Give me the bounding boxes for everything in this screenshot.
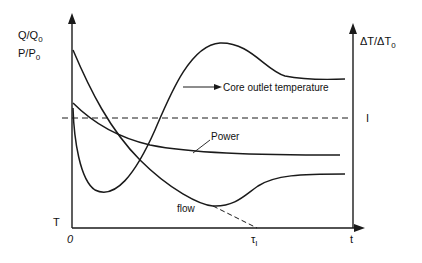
flow-label: flow (177, 203, 196, 214)
left-axis (68, 13, 76, 228)
x-axis-label: t (350, 233, 353, 245)
origin-label: 0 (67, 233, 74, 245)
flow-extrapolation-line (213, 206, 257, 228)
power-label: Power (211, 131, 240, 142)
left-axis-label-p: P/P0 (18, 47, 41, 62)
transient-response-diagram: Q/Q0 P/P0 ΔT/ΔT0 I T 0 t τI Core outlet … (0, 0, 422, 263)
x-axis (72, 224, 365, 232)
tau-label: τI (251, 233, 258, 248)
t-label: T (53, 216, 60, 228)
core-outlet-temperature-label: Core outlet temperature (223, 82, 329, 93)
up-arrow-icon (349, 23, 357, 34)
power-curve (73, 103, 340, 155)
arrow-right-icon (214, 84, 222, 90)
up-arrow-icon (68, 13, 76, 24)
right-axis (349, 23, 357, 228)
right-axis-label: ΔT/ΔT0 (360, 35, 396, 50)
left-axis-label-q: Q/Q0 (18, 29, 43, 44)
flow-curve (73, 50, 345, 206)
right-axis-tick-one: I (366, 112, 369, 124)
right-arrow-icon (354, 224, 365, 232)
